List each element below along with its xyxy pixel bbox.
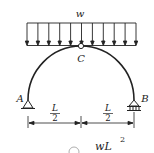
answer-expression-base: wL [95,140,112,153]
load-arrowhead-icon [25,41,28,46]
option-circle-icon [69,147,79,153]
load-arrowhead-icon [123,41,126,46]
load-arrows [25,23,137,46]
support-a-label: A [15,93,23,104]
roller-support-b-icon [127,100,141,111]
dim-right-denominator: 2 [105,113,110,123]
load-arrowhead-icon [58,41,61,46]
load-arrowhead-icon [113,41,116,46]
dim-left-numerator: L [51,103,58,113]
dim-left-denominator: 2 [52,113,57,123]
hinge-c-icon [78,43,83,48]
distributed-load [25,23,137,46]
answer-expression-exponent: 2 [120,135,125,144]
support-b-label: B [140,93,148,104]
load-arrowhead-icon [69,41,72,46]
load-arrowhead-icon [36,41,39,46]
load-arrowhead-icon [47,41,50,46]
load-arrowhead-icon [91,41,94,46]
load-arrowhead-icon [134,41,137,46]
load-label: w [76,8,85,19]
arch-diagram: w C A B L 2 L 2 wL 2 [0,0,154,153]
dimension-line [28,112,134,128]
hinge-label: C [77,53,85,64]
dim-right-numerator: L [104,103,111,113]
load-arrowhead-icon [102,41,105,46]
